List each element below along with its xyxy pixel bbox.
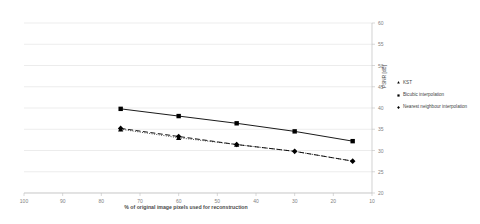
y-tick-label: 25 (378, 169, 384, 175)
triangle-marker-icon (396, 80, 401, 85)
x-axis-title: % of original image pixels used for reco… (0, 204, 372, 210)
chart-legend: KSTBicubic interpolationNearest neighbou… (396, 80, 480, 117)
data-series-layer (118, 107, 356, 164)
axis-lines (24, 23, 375, 196)
legend-label: KST (403, 80, 480, 86)
legend-item-bicubic-interpolation[interactable]: Bicubic interpolation (396, 92, 480, 98)
series-bicubic-interpolation (118, 107, 354, 144)
y-tick-label: 60 (378, 20, 384, 26)
y-axis-title: PSNR [dB] (382, 65, 387, 88)
gridlines (24, 23, 372, 193)
legend-label: Bicubic interpolation (403, 92, 480, 98)
square-marker-icon (396, 93, 401, 98)
y-tick-label: 20 (378, 190, 384, 196)
chart-container: 100908070605040302010 202530354045505560… (0, 0, 480, 224)
diamond-marker-icon (396, 105, 401, 110)
legend-item-kst[interactable]: KST (396, 80, 480, 86)
legend-item-nearest-neighbour-interpolation[interactable]: Nearest neighbour interpolation (396, 104, 480, 110)
series-kst-tail (179, 138, 353, 161)
y-tick-label: 40 (378, 105, 384, 111)
y-tick-label: 35 (378, 126, 384, 132)
series-kst (118, 126, 181, 140)
y-tick-label: 30 (378, 148, 384, 154)
legend-label: Nearest neighbour interpolation (403, 104, 480, 110)
y-tick-label: 55 (378, 41, 384, 47)
